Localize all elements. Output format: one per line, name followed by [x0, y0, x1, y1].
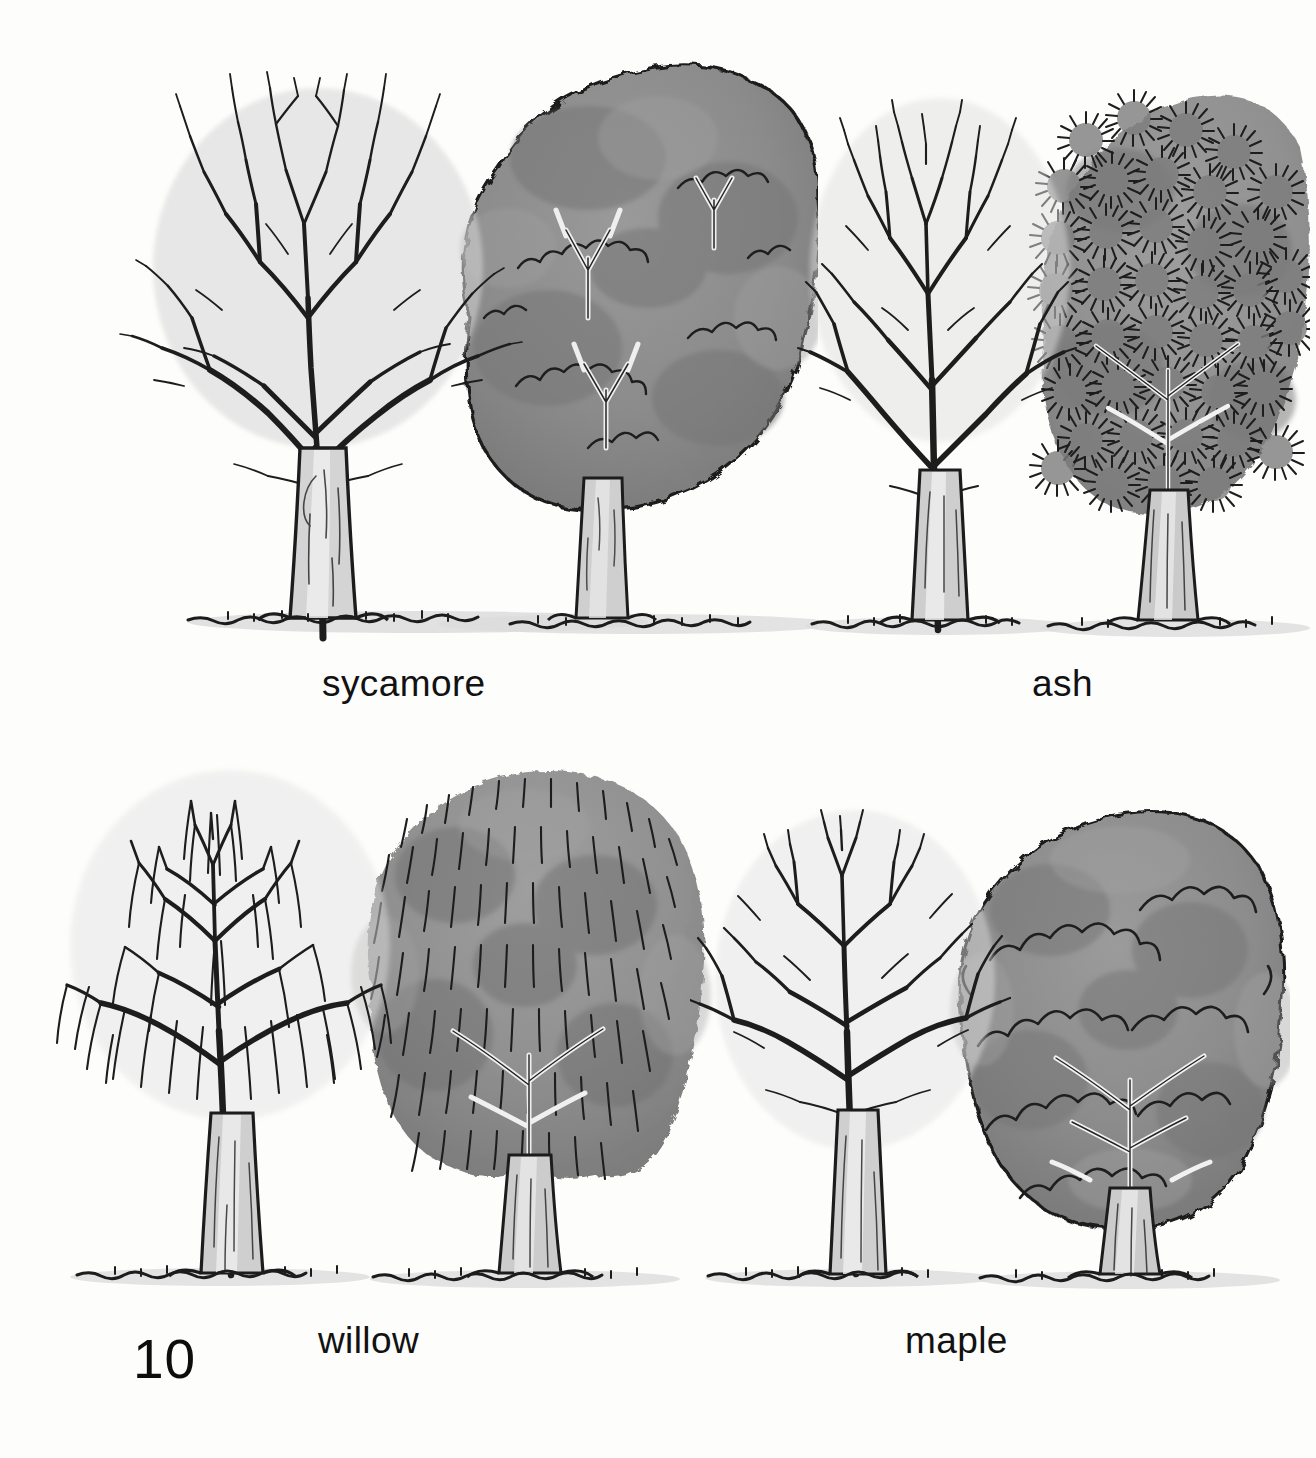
figure-maple	[690, 780, 1290, 1305]
figure-willow	[55, 735, 715, 1305]
caption-sycamore: sycamore	[322, 665, 486, 702]
sycamore-illustration	[118, 18, 818, 658]
caption-ash: ash	[1032, 665, 1093, 702]
sycamore-leafy-tree	[460, 65, 818, 620]
caption-maple: maple	[905, 1322, 1008, 1359]
ash-illustration	[790, 40, 1310, 658]
figure-ash	[790, 40, 1310, 658]
willow-bare-tree	[57, 770, 391, 1276]
ash-bare-tree	[798, 98, 1076, 630]
willow-leafy-tree	[351, 771, 711, 1277]
willow-illustration	[55, 735, 715, 1305]
maple-illustration	[690, 780, 1290, 1305]
caption-willow: willow	[318, 1322, 419, 1359]
figure-sycamore	[118, 18, 818, 658]
book-page: sycamore	[0, 0, 1316, 1458]
ash-leafy-tree	[1028, 90, 1310, 624]
sycamore-bare-tree	[120, 72, 522, 638]
maple-leafy-tree	[950, 812, 1290, 1279]
maple-bare-tree	[690, 810, 1010, 1277]
page-number: 10	[133, 1332, 196, 1387]
